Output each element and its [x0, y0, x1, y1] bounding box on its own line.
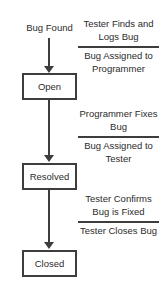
annotation-group-resolved: Programmer Fixes Bug Bug Assigned to Tes… — [78, 108, 159, 165]
annotation-above-text: Tester Confirms Bug is Fixed — [78, 193, 159, 218]
annotation-divider — [78, 221, 159, 223]
annotation-divider — [78, 136, 159, 138]
arrowhead-open-to-resolved-icon — [44, 155, 54, 162]
state-box-resolved[interactable]: Resolved — [22, 163, 77, 190]
state-label-open: Open — [38, 82, 61, 92]
state-label-closed: Closed — [35, 259, 65, 269]
annotation-above-text: Programmer Fixes Bug — [78, 108, 159, 133]
connector-entry-to-open — [48, 38, 50, 67]
state-box-open[interactable]: Open — [22, 73, 77, 100]
bug-lifecycle-diagram: Bug Found Open Resolved Closed Tester Fi… — [0, 0, 163, 289]
annotation-below-text: Bug Assigned to Programmer — [78, 50, 159, 75]
arrowhead-resolved-to-closed-icon — [44, 242, 54, 249]
arrowhead-entry-to-open-icon — [44, 66, 54, 73]
state-box-closed[interactable]: Closed — [22, 250, 77, 277]
annotation-above-text: Tester Finds and Logs Bug — [78, 18, 159, 43]
annotation-below-text: Tester Closes Bug — [78, 225, 159, 238]
annotation-below-text: Bug Assigned to Tester — [78, 140, 159, 165]
annotation-divider — [78, 46, 159, 48]
connector-open-to-resolved — [48, 100, 50, 156]
state-label-resolved: Resolved — [30, 172, 70, 182]
annotation-group-open: Tester Finds and Logs Bug Bug Assigned t… — [78, 18, 159, 75]
connector-resolved-to-closed — [48, 190, 50, 243]
annotation-group-closed: Tester Confirms Bug is Fixed Tester Clos… — [78, 193, 159, 238]
